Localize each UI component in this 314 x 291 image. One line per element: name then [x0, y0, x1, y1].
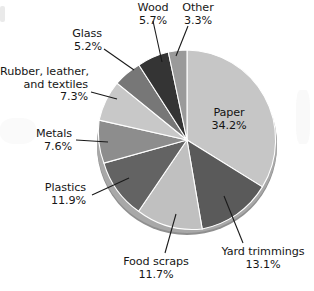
label-rubber-line1: Rubber, leather,: [0, 66, 88, 79]
label-metals: Metals 7.6%: [4, 128, 72, 153]
label-glass: Glass 5.2%: [24, 28, 102, 53]
label-metals-value: 7.6%: [4, 141, 72, 154]
label-rubber-value: 7.3%: [0, 91, 88, 104]
label-plastics-value: 11.9%: [8, 195, 86, 208]
label-metals-name: Metals: [4, 128, 72, 141]
pie-chart-figure: Wood 5.7% Other 3.3% Glass 5.2% Rubber, …: [0, 0, 314, 291]
leader-line-glass: [104, 49, 134, 70]
label-other-value: 3.3%: [167, 15, 229, 28]
label-glass-name: Glass: [24, 28, 102, 41]
label-food-scraps-name: Food scraps: [104, 256, 208, 269]
label-other-name: Other: [167, 2, 229, 15]
label-food-scraps-value: 11.7%: [104, 269, 208, 282]
label-yard-trimmings-value: 13.1%: [214, 259, 312, 272]
label-paper-value: 34.2%: [196, 120, 262, 133]
label-paper: Paper 34.2%: [196, 107, 262, 132]
label-plastics-name: Plastics: [8, 182, 86, 195]
label-glass-value: 5.2%: [24, 41, 102, 54]
label-other: Other 3.3%: [167, 2, 229, 27]
label-paper-name: Paper: [196, 107, 262, 120]
label-yard-trimmings: Yard trimmings 13.1%: [214, 246, 312, 271]
label-plastics: Plastics 11.9%: [8, 182, 86, 207]
label-food-scraps: Food scraps 11.7%: [104, 256, 208, 281]
label-rubber-leather-textiles: Rubber, leather, and textiles 7.3%: [0, 66, 88, 104]
label-yard-trimmings-name: Yard trimmings: [214, 246, 312, 259]
